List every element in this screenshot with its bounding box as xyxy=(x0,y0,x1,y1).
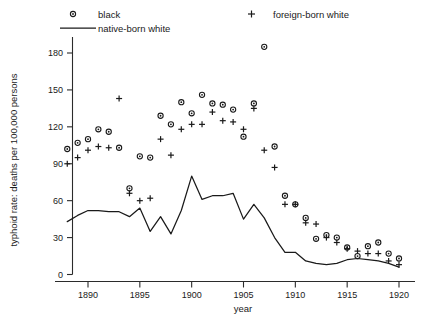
x-axis-ticks: 1890189519001905191019151920 xyxy=(78,282,409,301)
data-point-circle-center xyxy=(77,142,79,144)
legend-label-foreign-born-white: foreign-born white xyxy=(273,9,349,20)
series-line-path xyxy=(67,176,399,267)
data-point-plus xyxy=(303,220,309,226)
data-point-plus xyxy=(272,164,278,170)
data-point-plus xyxy=(75,155,81,161)
data-point-circle-center xyxy=(274,146,276,148)
x-tick-label: 1890 xyxy=(78,290,98,300)
data-point-circle-center xyxy=(180,101,182,103)
legend-marker-plus-foreign-born-white xyxy=(248,11,255,18)
y-tick-label: 60 xyxy=(53,196,63,206)
data-point-plus xyxy=(64,161,70,167)
y-tick-label: 0 xyxy=(58,270,63,280)
chart-canvas: black native-born white foreign-born whi… xyxy=(0,0,422,325)
x-tick-label: 1905 xyxy=(233,290,253,300)
data-point-plus xyxy=(282,201,288,207)
data-point-circle-center xyxy=(212,103,214,105)
data-point-circle-center xyxy=(108,131,110,133)
legend-label-native-born-white: native-born white xyxy=(98,23,170,34)
data-point-circle-center xyxy=(336,237,338,239)
legend-marker-circle-black-center xyxy=(72,13,74,15)
typhoid-rate-chart: black native-born white foreign-born whi… xyxy=(0,0,422,325)
x-tick-label: 1920 xyxy=(389,290,409,300)
data-point-plus xyxy=(355,248,361,254)
data-point-plus xyxy=(220,118,226,124)
data-point-circle-center xyxy=(87,138,89,140)
data-point-circle-center xyxy=(398,258,400,260)
chart-series-layer xyxy=(64,44,402,267)
data-point-circle-center xyxy=(305,217,307,219)
data-point-circle-center xyxy=(243,136,245,138)
y-tick-label: 90 xyxy=(53,159,63,169)
data-point-circle-center xyxy=(160,115,162,117)
data-point-circle-center xyxy=(201,94,203,96)
data-point-circle-center xyxy=(232,109,234,111)
data-point-plus xyxy=(334,240,340,246)
data-point-plus xyxy=(261,147,267,153)
data-point-circle-center xyxy=(149,157,151,159)
data-point-plus xyxy=(168,152,174,158)
y-axis-title: typhoid rate: deaths per 100,000 persons xyxy=(8,73,19,246)
data-point-circle-center xyxy=(263,46,265,48)
data-point-plus xyxy=(189,121,195,127)
data-point-plus xyxy=(85,147,91,153)
data-point-plus xyxy=(209,109,215,115)
x-axis-title: year xyxy=(234,303,252,314)
data-point-plus xyxy=(116,96,122,102)
data-point-circle-center xyxy=(315,238,317,240)
data-point-circle-center xyxy=(284,195,286,197)
y-tick-label: 120 xyxy=(48,122,63,132)
data-point-circle-center xyxy=(129,187,131,189)
data-point-circle-center xyxy=(222,104,224,106)
data-point-plus xyxy=(199,121,205,127)
series-foreign-born-white xyxy=(64,96,402,268)
data-point-plus xyxy=(241,126,247,132)
series-native-born-white xyxy=(67,176,399,267)
data-point-circle-center xyxy=(97,128,99,130)
data-point-plus xyxy=(230,119,236,125)
data-point-circle-center xyxy=(66,148,68,150)
data-point-plus xyxy=(126,190,132,196)
data-point-circle-center xyxy=(253,103,255,105)
data-point-circle-center xyxy=(357,255,359,257)
data-point-plus xyxy=(95,144,101,150)
y-tick-label: 30 xyxy=(53,233,63,243)
data-point-plus xyxy=(178,126,184,132)
y-tick-label: 180 xyxy=(48,48,63,58)
legend-label-black: black xyxy=(98,9,120,20)
data-point-plus xyxy=(158,136,164,142)
x-tick-label: 1910 xyxy=(285,290,305,300)
chart-axes: 0306090120150180 18901895190019051910191… xyxy=(48,37,415,300)
x-tick-label: 1895 xyxy=(130,290,150,300)
data-point-plus xyxy=(106,145,112,151)
chart-legend: black native-born white foreign-born whi… xyxy=(60,9,349,34)
data-point-circle-center xyxy=(170,123,172,125)
data-point-circle-center xyxy=(367,245,369,247)
data-point-circle-center xyxy=(377,242,379,244)
data-point-circle-center xyxy=(139,155,141,157)
x-tick-label: 1900 xyxy=(182,290,202,300)
data-point-plus xyxy=(313,221,319,227)
data-point-circle-center xyxy=(388,253,390,255)
data-point-plus xyxy=(365,251,371,257)
data-point-plus xyxy=(147,195,153,201)
data-point-plus xyxy=(375,251,381,257)
data-point-plus xyxy=(251,105,257,111)
y-tick-label: 150 xyxy=(48,85,63,95)
data-point-circle-center xyxy=(191,112,193,114)
data-point-circle-center xyxy=(118,147,120,149)
series-black xyxy=(65,44,402,261)
data-point-plus xyxy=(137,198,143,204)
x-tick-label: 1915 xyxy=(337,290,357,300)
